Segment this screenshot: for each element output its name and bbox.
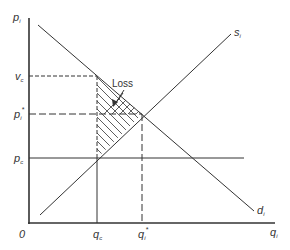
loss-label: Loss bbox=[112, 78, 133, 89]
qstar-label: qi* bbox=[138, 226, 148, 241]
price-ceiling-diagram: Loss pi qi 0 vc pi* pc qc qi* si di bbox=[0, 0, 290, 250]
demand-curve bbox=[38, 25, 254, 211]
y-axis-label: pi bbox=[12, 11, 21, 24]
pstar-label: pi* bbox=[13, 106, 24, 121]
loss-region bbox=[80, 28, 150, 202]
supply-curve bbox=[40, 34, 231, 215]
origin-label: 0 bbox=[19, 228, 26, 240]
pc-label: pc bbox=[13, 152, 23, 165]
x-axis-label: qi bbox=[270, 226, 278, 239]
vc-label: vc bbox=[15, 70, 24, 83]
qc-label: qc bbox=[93, 228, 102, 241]
supply-label: si bbox=[234, 26, 242, 39]
demand-label: di bbox=[257, 204, 265, 217]
